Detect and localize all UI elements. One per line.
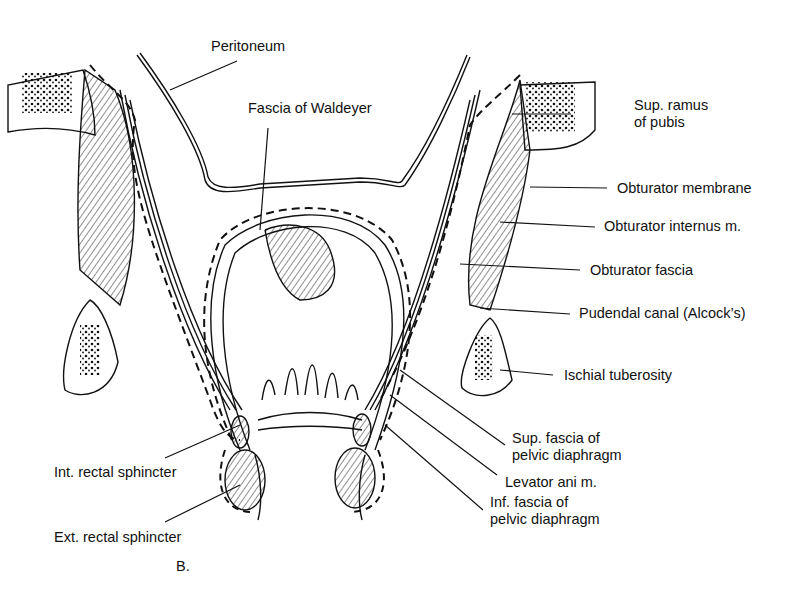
label-ischial-tuberosity: Ischial tuberosity (564, 367, 672, 384)
label-peritoneum: Peritoneum (211, 38, 285, 55)
left-obturator-internus (78, 70, 134, 305)
panel-label: B. (176, 558, 190, 575)
label-obturator-internus: Obturator internus m. (604, 218, 741, 235)
left-int-sphincter (231, 416, 249, 448)
label-sup-ramus-line1: Sup. ramus (634, 97, 708, 114)
label-levator-ani: Levator ani m. (505, 474, 597, 491)
label-fascia-waldeyer: Fascia of Waldeyer (248, 100, 372, 117)
label-ext-rectal-sphincter: Ext. rectal sphincter (54, 529, 181, 546)
peritoneum-shape (137, 53, 470, 192)
anatomy-illustration (0, 0, 810, 595)
label-inf-fascia-line1: Inf. fascia of (490, 494, 600, 511)
left-ext-sphincter (225, 450, 265, 510)
label-sup-fascia-line2: pelvic diaphragm (512, 447, 622, 464)
right-int-sphincter (353, 414, 371, 446)
right-ext-sphincter (335, 448, 375, 508)
label-sup-ramus: Sup. ramus of pubis (634, 97, 708, 131)
label-sup-fascia-line1: Sup. fascia of (512, 430, 622, 447)
label-pudendal-canal: Pudendal canal (Alcock’s) (579, 305, 746, 322)
label-obturator-fascia: Obturator fascia (590, 262, 693, 279)
label-inf-fascia-line2: pelvic diaphragm (490, 511, 600, 528)
label-int-rectal-sphincter: Int. rectal sphincter (54, 464, 177, 481)
label-obturator-membrane: Obturator membrane (617, 180, 752, 197)
label-sup-ramus-line2: of pubis (634, 114, 708, 131)
label-inf-fascia: Inf. fascia of pelvic diaphragm (490, 494, 600, 528)
label-sup-fascia: Sup. fascia of pelvic diaphragm (512, 430, 622, 464)
